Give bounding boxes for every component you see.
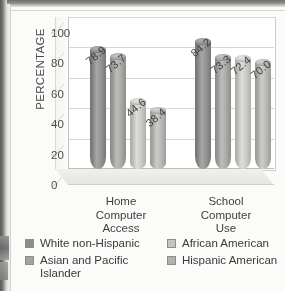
x-axis-category-line: Access — [68, 222, 174, 236]
plot-area: 020406080100 78.973.744.638.484.273.372.… — [55, 17, 284, 185]
legend-item[interactable]: Asian and Pacific Islander — [25, 254, 165, 280]
plot-floor — [55, 169, 274, 185]
y-axis-tick-mark — [51, 33, 55, 34]
scanned-page: PERCENTAGE 020406080100 78.973.744.638.4… — [0, 0, 285, 291]
y-axis-tick-mark — [51, 124, 55, 125]
y-axis-tick-mark — [51, 185, 55, 186]
y-axis-line — [68, 17, 69, 169]
legend-column-left: White non-HispanicAsian and Pacific Isla… — [25, 237, 165, 284]
legend-label: White non-Hispanic — [40, 237, 140, 250]
x-axis-category-line: Computer — [173, 209, 279, 223]
legend-swatch — [167, 256, 176, 265]
legend-swatch — [25, 256, 34, 265]
legend-item[interactable]: African American — [167, 237, 285, 250]
gridline — [68, 17, 274, 18]
bar — [195, 41, 211, 169]
legend-column-right: African AmericanHispanic American — [167, 237, 285, 271]
legend-swatch — [25, 239, 34, 248]
y-axis-tick-mark — [51, 63, 55, 64]
x-axis-category-line: Use — [173, 222, 279, 236]
legend-label: Hispanic American — [182, 254, 277, 267]
y-axis-tick-mark — [51, 93, 55, 94]
bar-body — [195, 41, 211, 169]
bar-chart: PERCENTAGE 020406080100 78.973.744.638.4… — [11, 11, 285, 281]
plot-floor-front-edge — [68, 184, 274, 185]
x-axis-category-label: HomeComputerAccess — [68, 195, 174, 236]
legend-label: Asian and Pacific Islander — [40, 254, 165, 280]
scan-top-edge — [0, 0, 285, 7]
page-caption-ghost — [18, 282, 276, 291]
legend-swatch — [167, 239, 176, 248]
legend-item[interactable]: White non-Hispanic — [25, 237, 165, 250]
scan-gutter-notch-lower — [0, 262, 8, 280]
x-axis-category-line: Computer — [68, 209, 174, 223]
x-axis-category-label: SchoolComputerUse — [173, 195, 279, 236]
y-axis-title: PERCENTAGE — [34, 14, 46, 124]
legend-item[interactable]: Hispanic American — [167, 254, 285, 267]
x-axis-category-line: Home — [68, 195, 174, 209]
legend-label: African American — [182, 237, 269, 250]
scan-gutter-notch — [0, 236, 9, 260]
x-axis-category-line: School — [173, 195, 279, 209]
y-axis-tick-mark — [51, 154, 55, 155]
